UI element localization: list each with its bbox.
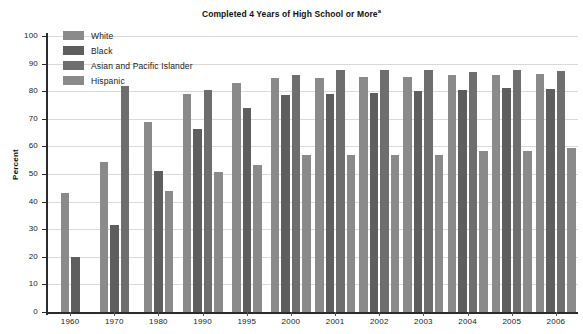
legend-item-label: Black [91,46,113,56]
bar [492,75,501,312]
y-axis-tick-label: 0 [8,307,38,316]
y-axis-tick-label: 10 [8,279,38,288]
legend-swatch-icon [63,31,84,40]
legend-item: Asian and Pacific Islander [63,58,263,73]
bar [414,91,423,312]
y-axis-tick-label: 80 [8,86,38,95]
bar [154,171,163,312]
bar [536,74,545,312]
bar [302,155,311,312]
legend-item: White [63,28,263,43]
legend-item-label: Hispanic [91,76,125,86]
bar [435,155,444,312]
bar [546,89,555,312]
y-axis-tick-label: 70 [8,114,38,123]
bar [193,129,202,312]
x-axis-tick-mark [468,312,469,316]
y-axis-tick-mark [42,312,47,313]
y-axis-tick-mark [42,91,47,92]
x-axis-tick-label: 2002 [359,317,399,326]
x-axis-tick-label: 2003 [403,317,443,326]
legend-item-label: Asian and Pacific Islander [91,61,193,71]
legend-swatch-icon [63,46,84,55]
bar [336,70,345,312]
legend-item: Black [63,43,263,58]
y-axis-tick-label: 20 [8,252,38,261]
bar [144,122,153,312]
x-axis-tick-label: 2000 [271,317,311,326]
bar [347,155,356,312]
y-axis-tick-label: 30 [8,224,38,233]
x-axis-tick-mark [114,312,115,316]
y-axis-tick-mark [42,229,47,230]
x-axis-tick-mark [512,312,513,316]
y-axis-tick-mark [42,119,47,120]
bar [359,77,368,312]
bar [243,108,252,312]
x-axis-tick-mark [556,312,557,316]
chart-legend: WhiteBlackAsian and Pacific IslanderHisp… [63,28,263,88]
x-axis-tick-label: 1960 [50,317,90,326]
y-axis-tick-mark [42,284,47,285]
y-axis-tick-mark [42,202,47,203]
y-axis-tick-mark [42,174,47,175]
y-axis-tick-label: 50 [8,169,38,178]
x-axis-tick-mark [70,312,71,316]
bar [391,155,400,312]
bar [370,93,379,312]
chart-title-text: Completed 4 Years of High School or More [202,9,378,19]
x-axis-tick-label: 2006 [536,317,576,326]
y-axis-tick-mark [42,146,47,147]
bar [424,70,433,312]
bar [183,94,192,312]
x-axis-tick-mark [379,312,380,316]
bar [567,148,576,312]
y-axis-tick-mark [42,64,47,65]
bar [315,78,324,312]
x-axis-tick-mark [203,312,204,316]
x-axis-tick-mark [158,312,159,316]
bar [204,90,213,312]
y-axis-tick-label: 90 [8,59,38,68]
bar [458,90,467,312]
x-axis-tick-label: 1995 [227,317,267,326]
bar [271,78,280,312]
x-axis-line [46,312,578,314]
bar [326,94,335,312]
bar [61,193,70,312]
bar [292,75,301,312]
bar [71,257,80,312]
bar [403,77,412,312]
x-axis-tick-mark [247,312,248,316]
x-axis-tick-mark [423,312,424,316]
x-axis-tick-label: 1980 [138,317,178,326]
chart-title-footnote-marker: a [378,8,381,14]
y-axis-tick-label: 60 [8,141,38,150]
bar [557,71,566,312]
legend-item: Hispanic [63,73,263,88]
x-axis-tick-label: 2001 [315,317,355,326]
x-axis-tick-label: 2005 [492,317,532,326]
x-axis-tick-mark [335,312,336,316]
legend-swatch-icon [63,61,84,70]
y-axis-tick-mark [42,257,47,258]
bar [100,162,109,312]
chart-title: Completed 4 Years of High School or More… [0,8,583,19]
bar [281,95,290,312]
bar [110,225,119,312]
bar [523,151,532,312]
y-axis-tick-label: 100 [8,31,38,40]
bar [469,72,478,312]
x-axis-tick-label: 2004 [448,317,488,326]
bar [121,86,130,312]
x-axis-tick-label: 1990 [183,317,223,326]
x-axis-tick-mark [291,312,292,316]
bar [214,172,223,312]
legend-swatch-icon [63,76,84,85]
bar [479,151,488,312]
bar [502,88,511,312]
bar [232,83,241,312]
bar-chart: Completed 4 Years of High School or More… [0,0,583,334]
bar [165,191,174,312]
bar [380,70,389,312]
